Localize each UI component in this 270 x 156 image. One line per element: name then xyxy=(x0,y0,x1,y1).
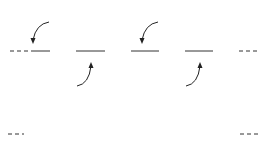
curved-arrow-icon xyxy=(77,66,91,86)
top-row xyxy=(10,22,258,86)
arrowhead-icon xyxy=(198,62,203,68)
curved-arrow-icon xyxy=(142,22,158,40)
chroma-multiplex-diagram xyxy=(0,0,270,156)
curved-arrow-icon xyxy=(33,22,49,40)
curved-arrow-icon xyxy=(186,66,200,86)
arrowhead-icon xyxy=(140,38,145,44)
arrowhead-icon xyxy=(31,38,36,44)
arrowhead-icon xyxy=(89,62,94,68)
